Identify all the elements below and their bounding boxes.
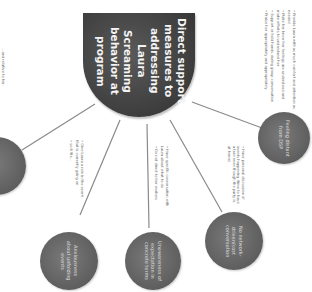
bullets-no-network: Have personal discussion of events happe… xyxy=(225,146,245,206)
node-feeling-distant-label: Feeling distant from DSP xyxy=(262,117,306,159)
connector-feeling-distant xyxy=(192,102,262,128)
bullets-left: Give Laura a role in the event that is c… xyxy=(67,140,84,200)
left-edge-note: ...and relative to her. xyxy=(0,48,5,118)
connector-unawareness xyxy=(147,124,149,228)
bullets-unawareness: Have specific conversation with Laura ab… xyxy=(152,146,169,216)
bullets-feeling-distant: Provide Laura with as much comfort and a… xyxy=(262,10,296,110)
connector-left xyxy=(22,104,95,150)
connector-anxiousness xyxy=(80,120,120,215)
node-no-network-label: No network-driven/cost conversation xyxy=(209,218,259,264)
node-anxiousness-label: Anxiousness about unfolding events xyxy=(44,238,94,284)
mind-map-canvas: ...and relative to her. Direct support m… xyxy=(0,0,312,292)
node-unawareness-label: Unawareness of expectation in concrete t… xyxy=(129,238,177,284)
connector-no-network xyxy=(170,120,222,212)
center-node-label: Direct support measures to addressing La… xyxy=(97,18,185,104)
